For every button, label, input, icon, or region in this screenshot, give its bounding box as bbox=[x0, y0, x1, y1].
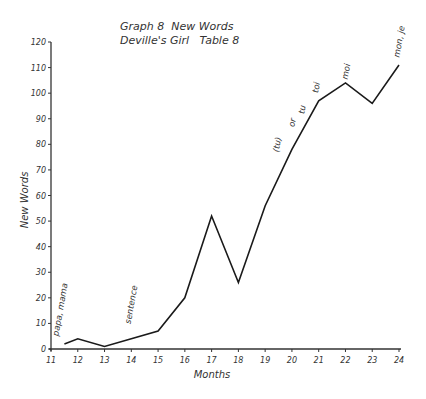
y-tick-label: 60 bbox=[36, 192, 46, 201]
data-line bbox=[64, 65, 399, 346]
y-axis-label: New Words bbox=[19, 172, 30, 229]
x-tick-label: 21 bbox=[314, 356, 324, 365]
x-tick-label: 16 bbox=[180, 356, 190, 365]
x-axis-label: Months bbox=[194, 369, 231, 380]
annotation-label: (tu) bbox=[271, 136, 284, 153]
annotation-label: papa, mama bbox=[50, 282, 69, 338]
x-tick-label: 20 bbox=[287, 356, 297, 365]
y-tick-label: 0 bbox=[41, 345, 46, 354]
annotation-label: or bbox=[286, 117, 297, 128]
annotation-label: moi bbox=[340, 62, 353, 80]
y-tick-label: 20 bbox=[36, 294, 46, 303]
y-tick-label: 120 bbox=[31, 38, 46, 47]
y-tick-label: 30 bbox=[36, 268, 46, 277]
annotation-label: toi bbox=[310, 81, 322, 94]
x-tick-label: 14 bbox=[126, 356, 136, 365]
x-tick-label: 13 bbox=[99, 356, 109, 365]
y-tick-label: 110 bbox=[31, 64, 46, 73]
x-tick-label: 24 bbox=[394, 356, 404, 365]
x-tick-label: 11 bbox=[46, 356, 56, 365]
x-tick-label: 12 bbox=[73, 356, 83, 365]
line-chart: 0102030405060708090100110120111213141516… bbox=[0, 0, 426, 399]
x-tick-label: 17 bbox=[207, 356, 218, 365]
annotation-label: sentence bbox=[123, 284, 140, 324]
x-tick-label: 19 bbox=[260, 356, 270, 365]
y-tick-label: 50 bbox=[36, 217, 46, 226]
annotation-label: mon, je bbox=[391, 25, 406, 58]
y-tick-label: 10 bbox=[36, 319, 46, 328]
x-tick-label: 18 bbox=[233, 356, 243, 365]
y-tick-label: 70 bbox=[36, 166, 46, 175]
x-tick-label: 15 bbox=[153, 356, 163, 365]
y-tick-label: 80 bbox=[36, 140, 46, 149]
annotation-label: tu bbox=[296, 104, 307, 114]
y-tick-label: 90 bbox=[36, 115, 46, 124]
y-tick-label: 40 bbox=[36, 243, 46, 252]
x-tick-label: 23 bbox=[367, 356, 377, 365]
x-tick-label: 22 bbox=[340, 356, 350, 365]
y-tick-label: 100 bbox=[31, 89, 46, 98]
